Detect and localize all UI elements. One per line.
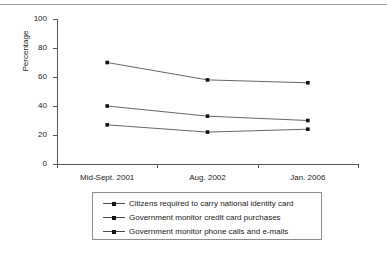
data-point-marker (306, 127, 310, 131)
legend-label: Government monitor credit card purchases (125, 213, 281, 222)
y-tick-label: 20 (38, 130, 47, 139)
data-point-marker (206, 78, 210, 82)
y-axis-title: Percentage (21, 58, 30, 72)
legend-label: Citizens required to carry national iden… (125, 199, 294, 208)
data-point-marker (105, 123, 109, 127)
y-tick-label: 0 (43, 159, 47, 168)
legend-marker-icon (103, 227, 125, 236)
legend-item[interactable]: Government monitor phone calls and e-mai… (103, 225, 321, 238)
chart-legend: Citizens required to carry national iden… (92, 192, 322, 240)
legend-item[interactable]: Government monitor credit card purchases (103, 211, 321, 224)
data-point-marker (306, 81, 310, 85)
legend-marker-icon (103, 213, 125, 222)
data-point-marker (306, 119, 310, 123)
y-tick-label: 60 (38, 72, 47, 81)
series-plot (57, 19, 358, 165)
plot-area: 020406080100 Mid-Sept. 2001Aug. 2002Jan.… (57, 19, 358, 164)
x-tick (358, 164, 359, 168)
top-divider-rule (0, 4, 387, 5)
clipped-caption-text: p pp (46, 0, 346, 3)
y-tick-label: 40 (38, 101, 47, 110)
chart-figure: p pp Percentage 020406080100 Mid-Sept. 2… (0, 0, 387, 255)
series-line (107, 106, 308, 121)
y-tick-label: 80 (38, 43, 47, 52)
data-point-marker (105, 61, 109, 65)
x-category-label: Jan. 2006 (290, 173, 325, 182)
data-point-marker (206, 130, 210, 134)
legend-label: Government monitor phone calls and e-mai… (125, 227, 288, 236)
y-tick-label: 100 (34, 14, 47, 23)
data-point-marker (206, 114, 210, 118)
x-category-label: Aug. 2002 (189, 173, 225, 182)
legend-item[interactable]: Citizens required to carry national iden… (103, 197, 321, 210)
data-point-marker (105, 104, 109, 108)
x-category-label: Mid-Sept. 2001 (80, 173, 134, 182)
legend-marker-icon (103, 199, 125, 208)
